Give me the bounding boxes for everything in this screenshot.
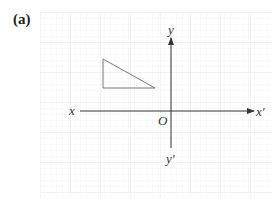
grid xyxy=(40,12,272,198)
coordinate-diagram: x x′ y y′ O xyxy=(0,0,280,201)
x-axis-label: x xyxy=(68,103,75,118)
y-prime-axis-label: y′ xyxy=(164,151,175,166)
x-prime-axis-label: x′ xyxy=(255,104,265,119)
y-axis-label: y xyxy=(166,22,174,37)
origin-label: O xyxy=(158,113,168,128)
